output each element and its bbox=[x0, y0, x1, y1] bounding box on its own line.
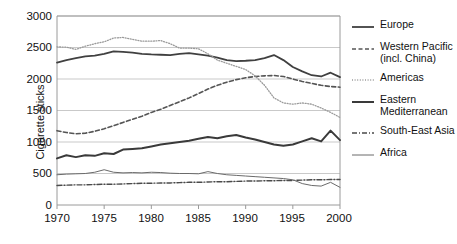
x-tick-marks bbox=[57, 205, 340, 209]
legend-label-western-pacific: Western Pacific bbox=[380, 40, 453, 52]
gridlines bbox=[57, 16, 340, 174]
legend-swatch-europe bbox=[352, 21, 374, 33]
legend-label-europe: Europe bbox=[380, 18, 414, 30]
series-line-south-east-asia bbox=[57, 179, 340, 185]
data-series-group bbox=[57, 37, 340, 187]
chart-container: Cigarette sticks 3000 2500 2000 1500 100… bbox=[0, 0, 457, 244]
legend: Europe Western Pacific (incl. China) Ame… bbox=[352, 18, 456, 168]
legend-label-western-pacific-sub: (incl. China) bbox=[380, 52, 453, 64]
legend-label-south-east-asia: South-East Asia bbox=[380, 124, 455, 136]
legend-item-americas[interactable]: Americas bbox=[352, 71, 456, 86]
series-line-western-pacific-incl-china bbox=[57, 76, 340, 134]
legend-item-europe[interactable]: Europe bbox=[352, 18, 456, 33]
legend-swatch-africa bbox=[352, 149, 374, 161]
series-line-eastern-mediterranean bbox=[57, 131, 340, 159]
legend-item-south-east-asia[interactable]: South-East Asia bbox=[352, 124, 456, 139]
legend-item-western-pacific[interactable]: Western Pacific (incl. China) bbox=[352, 40, 456, 64]
legend-label-africa: Africa bbox=[380, 146, 407, 158]
legend-swatch-south-east-asia bbox=[352, 127, 374, 139]
legend-swatch-americas bbox=[352, 74, 374, 86]
legend-swatch-eastern-mediterranean bbox=[352, 96, 374, 108]
legend-item-eastern-mediterranean[interactable]: Eastern Mediterranean bbox=[352, 93, 456, 117]
legend-swatch-western-pacific bbox=[352, 43, 374, 55]
legend-label-mediterranean: Mediterranean bbox=[380, 105, 448, 117]
series-line-europe bbox=[57, 51, 340, 77]
legend-label-americas: Americas bbox=[380, 71, 424, 83]
legend-item-africa[interactable]: Africa bbox=[352, 146, 456, 161]
series-line-americas bbox=[57, 37, 340, 117]
legend-label-eastern: Eastern bbox=[380, 93, 448, 105]
